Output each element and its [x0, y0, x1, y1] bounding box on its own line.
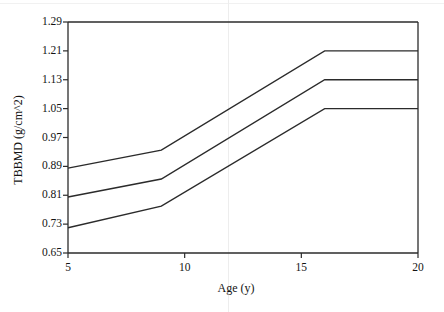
x-axis-title: Age (y)	[218, 281, 255, 296]
y-axis-tick-label: 1.05	[28, 103, 62, 115]
data-series-line	[68, 109, 418, 228]
y-axis-tick-label: 0.89	[28, 161, 62, 173]
figure-container: 0.650.730.810.890.971.051.131.211.295101…	[0, 0, 444, 312]
y-axis-tick-label: 1.13	[28, 74, 62, 86]
y-axis-tick-label: 0.65	[28, 247, 62, 259]
y-axis-tick-label: 1.21	[28, 45, 62, 57]
y-axis-tick-label: 1.29	[28, 16, 62, 28]
x-axis-tick-label: 20	[412, 262, 424, 274]
x-axis-tick-label: 5	[65, 262, 71, 274]
y-axis-title: TBBMD (g/cm^2)	[11, 95, 26, 184]
y-axis-tick-label: 0.73	[28, 218, 62, 230]
data-series-line	[68, 80, 418, 197]
data-series-line	[68, 51, 418, 168]
y-axis-tick-label: 0.97	[28, 132, 62, 144]
x-axis-tick-label: 10	[179, 262, 191, 274]
y-axis-tick-label: 0.81	[28, 190, 62, 202]
x-axis-tick-label: 15	[296, 262, 308, 274]
